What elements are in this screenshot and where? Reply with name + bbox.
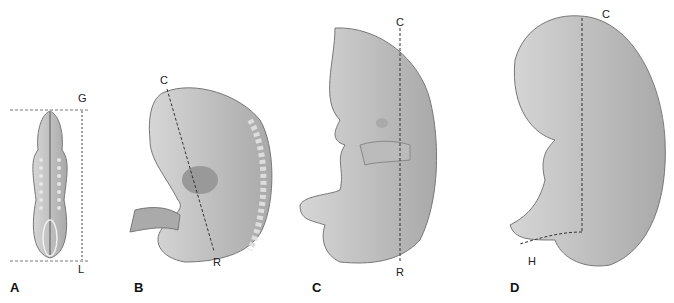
embryo-c: [300, 28, 437, 263]
embryo-b: [130, 88, 272, 262]
panel-label-b: B: [134, 280, 143, 295]
point-c-bottom: R: [396, 266, 404, 278]
point-a-top: G: [78, 92, 87, 104]
point-b-top: C: [160, 74, 168, 86]
panel-label-c: C: [312, 280, 321, 295]
embryo-diagram: [0, 0, 674, 303]
embryo-d: [510, 16, 665, 266]
point-c-top: C: [396, 16, 404, 28]
point-d-bottom: H: [528, 255, 536, 267]
panel-label-d: D: [510, 280, 519, 295]
point-b-bottom: R: [213, 256, 221, 268]
point-a-bottom: L: [78, 263, 84, 275]
embryo-a: [10, 110, 90, 261]
point-d-top: C: [602, 8, 610, 20]
panel-label-a: A: [10, 280, 19, 295]
